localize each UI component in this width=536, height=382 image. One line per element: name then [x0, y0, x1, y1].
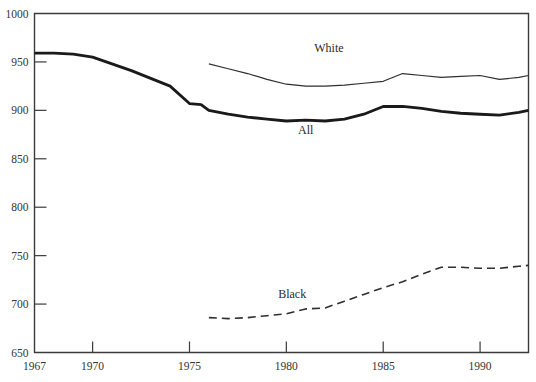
chart-series: [35, 53, 529, 318]
series-label-all: All: [298, 123, 314, 137]
plot-frame: [35, 14, 529, 353]
y-tick-label-1000: 1000: [6, 8, 29, 20]
y-tick-label-650: 650: [11, 347, 29, 359]
y-axis-tick-labels: 6507007508008509009501000: [6, 8, 29, 359]
x-tick-label-1970: 1970: [81, 360, 104, 372]
chart-container: 6507007508008509009501000 19671970197519…: [0, 0, 536, 382]
x-tick-label-1990: 1990: [469, 360, 492, 372]
x-tick-label-1975: 1975: [178, 360, 201, 372]
series-line-white: [209, 64, 529, 86]
y-tick-label-800: 800: [11, 201, 29, 213]
series-label-black: Black: [278, 287, 306, 301]
series-label-white: White: [314, 41, 343, 55]
y-tick-label-850: 850: [11, 153, 29, 165]
y-tick-label-750: 750: [11, 250, 29, 262]
x-tick-label-1967: 1967: [23, 360, 46, 372]
series-inline-labels: WhiteAllBlack: [278, 41, 343, 301]
series-line-black: [209, 265, 529, 318]
y-tick-label-950: 950: [11, 56, 29, 68]
line-chart: 6507007508008509009501000 19671970197519…: [0, 0, 536, 382]
chart-axes: [35, 14, 529, 353]
series-line-all: [35, 53, 529, 121]
x-axis-tick-labels: 196719701975198019851990: [23, 360, 492, 372]
x-tick-label-1980: 1980: [275, 360, 298, 372]
chart-ticks: [35, 62, 481, 353]
y-tick-label-700: 700: [11, 298, 29, 310]
y-tick-label-900: 900: [11, 104, 29, 116]
x-tick-label-1985: 1985: [372, 360, 395, 372]
